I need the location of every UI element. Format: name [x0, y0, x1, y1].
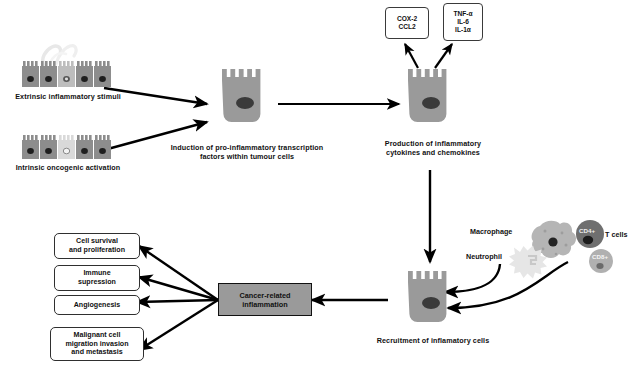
- immune-suppression-line-1: Immune: [83, 269, 110, 277]
- metastasis-line-2: migration invasion: [65, 340, 128, 348]
- outcome-immune-suppression: Immune supression: [54, 265, 140, 291]
- outcome-angiogenesis: Angiogenesis: [54, 295, 140, 315]
- t-cells-label: T cells: [605, 230, 627, 239]
- diagram-canvas: Extrinsic inflammatory stimuli: [0, 0, 632, 371]
- cancer-related-inflammation-node: Cancer-related inflammation: [218, 283, 312, 316]
- cell-survival-line-1: Cell survival: [76, 237, 118, 245]
- angiogenesis-line-1: Angiogenesis: [74, 301, 121, 310]
- central-line-1: Cancer-related: [239, 291, 290, 300]
- cell-survival-line-2: and proliferation: [69, 246, 125, 254]
- macrophage-label: Macrophage: [470, 227, 512, 236]
- metastasis-line-1: Malignant cell: [74, 331, 121, 339]
- immune-suppression-line-2: supression: [78, 278, 116, 286]
- outcome-cell-survival: Cell survival and proliferation: [54, 233, 140, 259]
- neutrophil-label: Neutrophil: [466, 252, 502, 261]
- outcome-metastasis: Malignant cell migration invasion and me…: [50, 327, 144, 361]
- neutrophil-icon: [509, 246, 547, 279]
- immune-cells-layer: [0, 0, 632, 371]
- central-line-2: inflammation: [242, 300, 287, 309]
- cd8-label: CD8+: [592, 253, 608, 260]
- metastasis-line-3: and metastasis: [71, 348, 122, 356]
- cd4-label: CD4+: [579, 227, 595, 234]
